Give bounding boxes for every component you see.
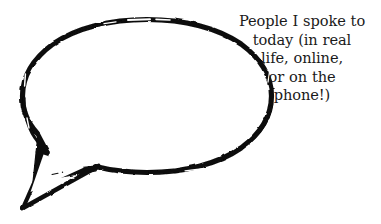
caption-line-4: or on the xyxy=(238,68,366,87)
caption-line-1: People I spoke to xyxy=(238,12,366,31)
illustration-canvas: People I spoke to today (in real life, o… xyxy=(0,0,381,224)
bubble-outline-gaps xyxy=(25,19,270,171)
caption-text: People I spoke to today (in real life, o… xyxy=(238,12,366,105)
bubble-fill xyxy=(23,21,271,208)
caption-line-2: today (in real xyxy=(238,31,366,50)
bubble-outline-weight xyxy=(24,20,271,172)
bubble-outline xyxy=(23,20,272,173)
caption-line-3: life, online, xyxy=(238,49,366,68)
ink-speckles xyxy=(52,172,63,175)
bubble-tail-interior xyxy=(31,155,85,193)
bubble-tail xyxy=(23,134,100,209)
caption-line-5: phone!) xyxy=(238,86,366,105)
